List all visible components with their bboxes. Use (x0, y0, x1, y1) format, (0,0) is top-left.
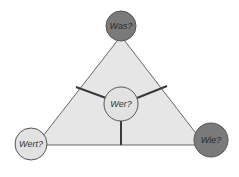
node-center-label: Wer? (110, 99, 131, 109)
node-left: Wert? (15, 128, 47, 160)
node-left-label: Wert? (19, 139, 43, 149)
node-center: Wer? (104, 87, 138, 121)
node-right-label: Wie? (201, 135, 221, 145)
node-top: Was? (106, 11, 136, 41)
triangle-diagram: Was? Wert? Wie? Wer? (0, 0, 239, 177)
node-right: Wie? (194, 123, 228, 157)
node-top-label: Was? (110, 21, 133, 31)
